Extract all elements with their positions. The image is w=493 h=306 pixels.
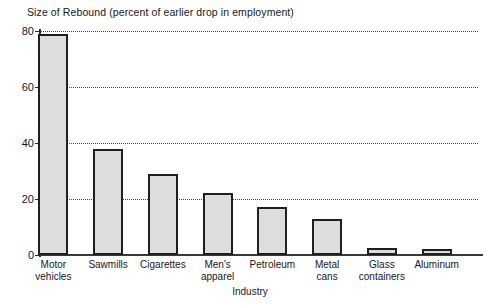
x-axis-category-label-line2: cans <box>300 271 355 283</box>
y-axis-tick-label: 40 <box>22 137 34 149</box>
y-axis-tick-label: 80 <box>22 25 34 37</box>
bar <box>93 149 123 255</box>
x-axis-category-label-line1: Men's <box>204 259 230 270</box>
x-axis-category-label: Glasscontainers <box>355 259 410 282</box>
x-axis-category-label: Men'sapparel <box>190 259 245 282</box>
x-axis-category-label: Metalcans <box>300 259 355 282</box>
bar <box>367 248 397 255</box>
x-axis-category-label: Sawmills <box>81 259 136 271</box>
bar <box>257 207 287 255</box>
x-axis-category-label-line1: Motor <box>41 259 67 270</box>
gridline <box>40 87 478 88</box>
y-axis-tick-label: 20 <box>22 193 34 205</box>
gridline <box>40 31 478 32</box>
x-axis-category-label-line2: vehicles <box>26 271 81 283</box>
chart-figure: Size of Rebound (percent of earlier drop… <box>0 0 493 306</box>
bar <box>422 249 452 255</box>
y-axis-tick-mark <box>35 255 40 256</box>
x-axis-title: Industry <box>205 286 295 297</box>
x-axis-category-label-line1: Metal <box>315 259 339 270</box>
gridline <box>40 143 478 144</box>
bar <box>38 34 68 255</box>
plot-area: 020406080 <box>40 31 478 255</box>
x-axis-category-label: Aluminum <box>409 259 464 271</box>
x-axis-category-label-line1: Aluminum <box>414 259 458 270</box>
x-axis-category-label-line1: Glass <box>369 259 395 270</box>
bar <box>203 193 233 255</box>
bar <box>148 174 178 255</box>
x-axis-category-label: Motorvehicles <box>26 259 81 282</box>
x-axis-category-label-line2: containers <box>355 271 410 283</box>
chart-title: Size of Rebound (percent of earlier drop… <box>27 6 294 18</box>
bar <box>312 219 342 255</box>
x-axis-category-label: Cigarettes <box>136 259 191 271</box>
x-axis-category-label-line2: apparel <box>190 271 245 283</box>
x-axis-category-label-line1: Cigarettes <box>140 259 186 270</box>
y-axis-tick-label: 60 <box>22 81 34 93</box>
x-axis-category-label-line1: Petroleum <box>250 259 296 270</box>
x-axis-category-label: Petroleum <box>245 259 300 271</box>
y-axis-tick-mark <box>35 31 40 32</box>
x-axis-category-label-line1: Sawmills <box>88 259 127 270</box>
